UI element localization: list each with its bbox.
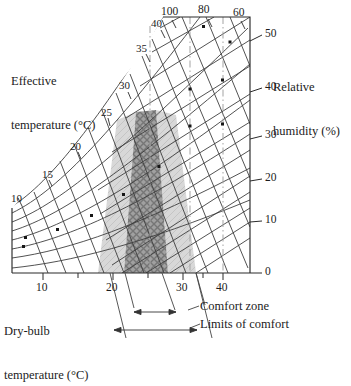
rh-tick-20: 20 [265, 171, 277, 185]
relative-humidity-caption-line1: Relative [273, 80, 340, 95]
effective-temperature-caption-line1: Effective [11, 74, 95, 89]
et-label-30: 30 [119, 79, 130, 92]
comfort-zone-arrow [134, 309, 176, 314]
et-label-15: 15 [42, 168, 53, 181]
rh-tick-10: 10 [265, 213, 277, 227]
rh-curve-label-100: 100 [161, 5, 178, 19]
comfort-zone-caption: Comfort zone [200, 299, 269, 314]
relative-humidity-caption: Relative humidity (%) [273, 50, 340, 168]
relative-humidity-caption-line2: humidity (%) [273, 124, 340, 139]
rh-tick-30: 30 [265, 128, 277, 142]
x-tick-10: 10 [36, 281, 48, 295]
et-label-40: 40 [151, 17, 162, 30]
rh-curve-label-80: 80 [198, 3, 210, 17]
et-label-20: 20 [70, 140, 81, 153]
et-label-35: 35 [136, 42, 147, 55]
band-leader-lines [110, 273, 212, 338]
x-tick-30: 30 [176, 281, 188, 295]
dry-bulb-caption: Dry-bulb temperature (°C) [4, 294, 88, 386]
et-label-25: 25 [101, 106, 112, 119]
y-axis-ticks [250, 35, 262, 273]
limits-of-comfort-arrow [114, 327, 197, 332]
effective-temperature-caption-line2: temperature (°C) [11, 118, 95, 133]
et-label-10: 10 [11, 192, 22, 205]
caption-leader-lines [188, 306, 200, 328]
rh-curve-label-60: 60 [233, 6, 245, 20]
limits-of-comfort-caption: Limits of comfort [200, 317, 289, 332]
x-tick-20: 20 [106, 281, 118, 295]
dry-bulb-caption-line2: temperature (°C) [4, 368, 88, 383]
dry-bulb-caption-line1: Dry-bulb [4, 324, 88, 339]
x-tick-40: 40 [216, 281, 228, 295]
rh-tick-0: 0 [265, 265, 271, 279]
rh-tick-50: 50 [265, 27, 277, 41]
effective-temperature-caption: Effective temperature (°C) [11, 44, 95, 162]
rh-tick-40: 40 [265, 80, 277, 94]
